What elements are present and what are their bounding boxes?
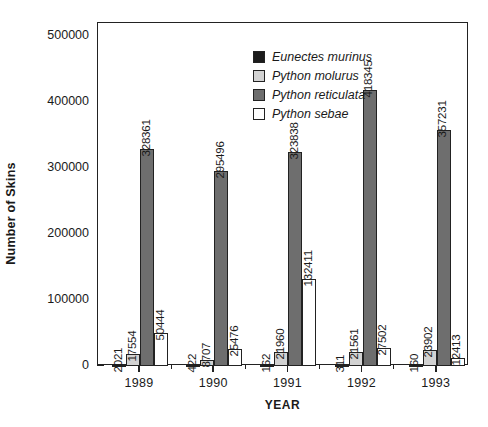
- bar-value-label: 422: [186, 353, 198, 372]
- x-tick-minor: [393, 365, 394, 369]
- x-tick: [361, 365, 363, 372]
- bar-value-label: 21960: [274, 328, 286, 359]
- x-tick-label: 1990: [183, 376, 243, 390]
- y-tick-label-text: 0: [82, 359, 97, 372]
- bar-chart-figure: Number of Skins 010000020000030000040000…: [0, 0, 488, 427]
- legend-label: Python sebae: [272, 107, 348, 121]
- bar-value-label: 323838: [288, 123, 300, 160]
- x-tick-label: 1989: [109, 376, 169, 390]
- bar: [214, 171, 228, 366]
- x-axis-title: YEAR: [97, 398, 468, 412]
- bar: [363, 90, 377, 366]
- legend-item: Python molurus: [253, 68, 372, 84]
- x-tick-minor: [245, 365, 246, 369]
- bar-value-label: 12413: [451, 334, 463, 365]
- bar-value-label: 50444: [154, 309, 166, 340]
- x-tick-minor: [171, 365, 172, 369]
- x-tick-label: 1991: [257, 376, 317, 390]
- y-axis-title-text: Number of Skins: [4, 162, 18, 264]
- y-tick-label-text: 200000: [47, 227, 97, 240]
- x-tick: [212, 365, 214, 372]
- bar-value-label: 160: [409, 353, 421, 372]
- bar-value-label: 17554: [126, 331, 138, 362]
- bar-value-label: 132411: [302, 250, 314, 286]
- bar: [437, 130, 451, 366]
- x-tick: [138, 365, 140, 372]
- legend-swatch: [253, 70, 265, 82]
- bar-value-label: 25476: [228, 326, 240, 357]
- y-tick-label-text: 400000: [47, 95, 97, 108]
- bar-value-label: 23902: [423, 327, 435, 358]
- bar-value-label: 21561: [349, 328, 361, 359]
- bar-value-label: 162: [260, 353, 272, 372]
- chart-legend: Eunectes murinusPython molurusPython ret…: [253, 49, 372, 122]
- legend-label: Python reticulata: [272, 88, 365, 102]
- x-tick: [287, 365, 289, 372]
- legend-label: Eunectes murinus: [272, 50, 372, 64]
- legend-swatch: [253, 108, 265, 120]
- bar-value-label: 311: [335, 354, 347, 372]
- bar: [288, 152, 302, 366]
- bar-value-label: 328361: [140, 120, 152, 157]
- bar: [302, 279, 316, 366]
- legend-label: Python molurus: [272, 69, 359, 83]
- bar-value-label: 357231: [437, 101, 449, 138]
- bar-value-label: 2021: [112, 347, 124, 372]
- y-axis-title: Number of Skins: [26, 0, 52, 427]
- y-tick-label-text: 500000: [47, 29, 97, 42]
- x-tick: [435, 365, 437, 372]
- x-tick-label: 1992: [332, 376, 392, 390]
- legend-item: Python sebae: [253, 106, 372, 122]
- bar: [140, 149, 154, 366]
- legend-item: Python reticulata: [253, 87, 372, 103]
- plot-area: 2021175543283615044442287072954962547616…: [97, 22, 468, 365]
- legend-swatch: [253, 51, 265, 63]
- y-tick-label-text: 300000: [47, 161, 97, 174]
- bar-value-label: 295496: [214, 141, 226, 178]
- bar-value-label: 8707: [200, 343, 212, 368]
- x-tick-minor: [319, 365, 320, 369]
- y-tick-label-text: 100000: [47, 293, 97, 306]
- bar-value-label: 27502: [377, 324, 389, 355]
- x-tick-label: 1993: [406, 376, 466, 390]
- legend-swatch: [253, 89, 265, 101]
- legend-item: Eunectes murinus: [253, 49, 372, 65]
